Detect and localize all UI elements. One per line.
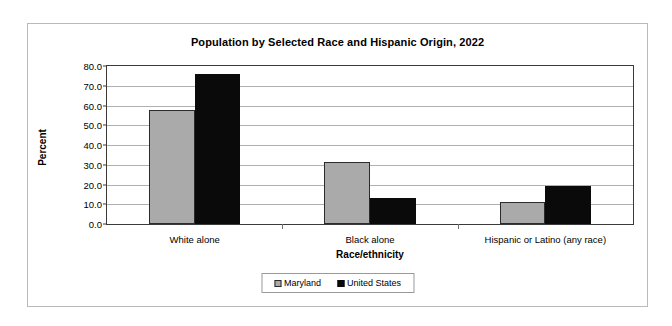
y-axis-tick-mark (103, 164, 107, 165)
x-axis-category-label: White alone (170, 234, 220, 245)
y-axis-tick-mark (103, 204, 107, 205)
y-axis-tick-mark (103, 184, 107, 185)
y-axis-tick-label: 60.0 (84, 100, 103, 111)
gridline (107, 86, 633, 87)
bar-maryland-0 (149, 110, 195, 224)
y-axis-tick-mark (103, 105, 107, 106)
y-axis-tick-label: 40.0 (84, 140, 103, 151)
y-axis-tick-label: 30.0 (84, 159, 103, 170)
chart-legend: MarylandUnited States (261, 273, 414, 293)
legend-label: United States (347, 278, 401, 288)
y-axis-tick-mark (103, 125, 107, 126)
legend-swatch-icon (274, 280, 281, 287)
y-axis-tick-mark (103, 145, 107, 146)
plot-area: 0.010.020.030.040.050.060.070.080.0White… (106, 65, 634, 225)
x-axis-title: Race/ethnicity (106, 249, 634, 260)
y-axis-tick-label: 50.0 (84, 120, 103, 131)
y-axis-tick-label: 10.0 (84, 199, 103, 210)
chart-title: Population by Selected Race and Hispanic… (28, 36, 647, 48)
x-axis-tick-mark (458, 224, 459, 229)
x-axis-tick-mark (282, 224, 283, 229)
x-axis-category-label: Hispanic or Latino (any race) (485, 234, 606, 245)
y-axis-tick-label: 80.0 (84, 61, 103, 72)
legend-item-united-states: United States (337, 278, 401, 288)
bar-united-states-2 (545, 186, 591, 224)
y-axis-tick-mark (103, 85, 107, 86)
legend-label: Maryland (284, 278, 321, 288)
chart-frame: Population by Selected Race and Hispanic… (27, 23, 648, 307)
legend-swatch-icon (337, 280, 344, 287)
x-axis-category-label: Black alone (345, 234, 394, 245)
y-axis-tick-label: 20.0 (84, 179, 103, 190)
bar-maryland-1 (324, 162, 370, 224)
y-axis-tick-label: 70.0 (84, 80, 103, 91)
bar-united-states-1 (370, 198, 416, 224)
gridline (107, 106, 633, 107)
y-axis-tick-label: 0.0 (89, 219, 102, 230)
bar-united-states-0 (195, 74, 241, 224)
y-axis-tick-mark (103, 66, 107, 67)
legend-item-maryland: Maryland (274, 278, 321, 288)
bar-maryland-2 (500, 202, 546, 224)
y-axis-tick-mark (103, 224, 107, 225)
y-axis-title: Percent (37, 108, 48, 188)
